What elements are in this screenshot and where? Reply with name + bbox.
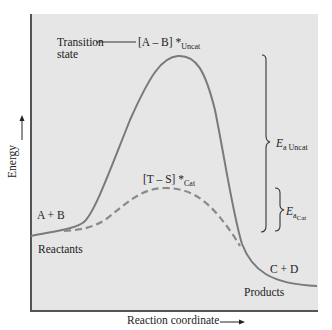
uncat-sub: Uncat xyxy=(181,42,200,51)
cat-complex-label: [T – S] *Cat xyxy=(143,173,195,187)
uncat-complex-text: [A – B] * xyxy=(138,36,181,48)
energy-arrow-head xyxy=(20,115,25,121)
transition-state-label: Transition state xyxy=(57,36,104,60)
y-axis-label: Energy xyxy=(6,145,18,178)
transition-label-line1: Transition xyxy=(57,36,104,48)
catalyzed-curve xyxy=(64,188,240,246)
ea-cat-brace xyxy=(275,188,284,231)
x-axis-label: Reaction coordinate xyxy=(127,314,219,326)
ea-uncat-e: E xyxy=(276,137,283,149)
ea-cat-subsub: Cat xyxy=(297,214,307,222)
ea-uncat-sub: a Uncat xyxy=(283,143,308,152)
ea-cat-label: EaCat xyxy=(286,205,306,219)
ea-uncat-label: Ea Uncat xyxy=(276,137,308,151)
cat-complex-text: [T – S] * xyxy=(143,173,184,185)
reactants-label: Reactants xyxy=(38,243,83,255)
cat-sub: Cat xyxy=(184,179,195,188)
transition-label-line2: state xyxy=(57,48,78,60)
reactants-formula: A + B xyxy=(37,209,65,221)
uncat-complex-label: [A – B] *Uncat xyxy=(138,36,200,50)
reaction-arrow-head xyxy=(239,320,245,325)
products-label: Products xyxy=(244,286,284,298)
ea-uncat-brace xyxy=(261,55,270,232)
products-formula: C + D xyxy=(270,263,298,275)
ea-cat-e: E xyxy=(286,205,293,217)
